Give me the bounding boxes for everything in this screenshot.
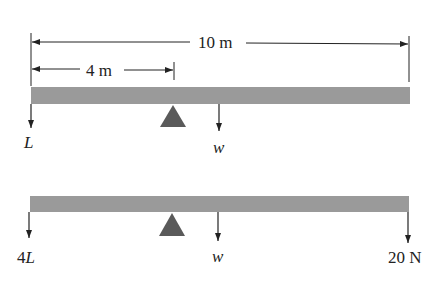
label-4m: 4 m — [86, 62, 112, 79]
beam-top — [31, 87, 410, 104]
label-4L-coef: 4 — [17, 248, 26, 267]
label-10m: 10 m — [198, 34, 232, 51]
label-w-top: w — [213, 139, 224, 156]
beam-bottom — [30, 196, 409, 212]
label-20N: 20 N — [388, 249, 422, 266]
label-4L: 4L — [17, 249, 35, 266]
label-w-bottom: w — [212, 248, 223, 265]
fulcrum-top-icon — [160, 105, 186, 127]
label-4L-var: L — [26, 248, 35, 267]
label-L: L — [24, 134, 33, 151]
fulcrum-bottom-icon — [159, 213, 185, 236]
